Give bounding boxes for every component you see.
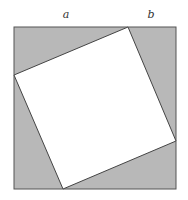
pythagorean-diagram: a b — [0, 0, 188, 200]
label-b: b — [147, 8, 154, 21]
label-a: a — [63, 8, 70, 21]
